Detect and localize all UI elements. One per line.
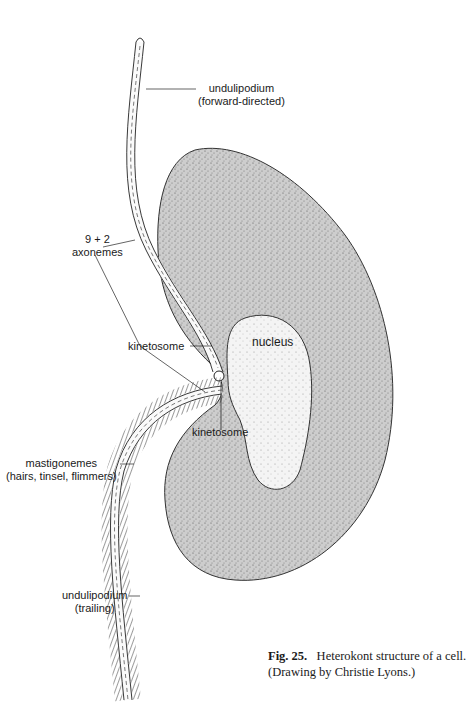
label-mastigonemes-line1: mastigonemes: [6, 457, 117, 470]
label-axonemes-line2: axonemes: [72, 246, 123, 259]
figure-caption: Fig. 25. Heterokont structure of a cell.…: [268, 648, 466, 680]
label-kinetosome-upper: kinetosome: [128, 340, 184, 353]
figure-number: Fig. 25.: [268, 649, 307, 663]
label-undulipodium-forward: undulipodium (forward-directed): [198, 82, 285, 108]
label-undulipodium-trailing-line2: (trailing): [62, 602, 127, 615]
label-undulipodium-forward-line1: undulipodium: [198, 82, 285, 95]
label-mastigonemes-line2: (hairs, tinsel, flimmers): [6, 470, 117, 483]
label-axonemes: 9 + 2 axonemes: [72, 233, 123, 259]
caption-credit: (Drawing by Christie Lyons.): [268, 664, 466, 680]
label-axonemes-line1: 9 + 2: [72, 233, 123, 246]
label-mastigonemes: mastigonemes (hairs, tinsel, flimmers): [6, 457, 117, 483]
caption-line1: Fig. 25. Heterokont structure of a cell.: [268, 648, 466, 664]
label-undulipodium-trailing-line1: undulipodium: [62, 589, 127, 602]
label-undulipodium-trailing: undulipodium (trailing): [62, 589, 127, 615]
label-undulipodium-forward-line2: (forward-directed): [198, 95, 285, 108]
label-kinetosome-lower: kinetosome: [192, 426, 248, 439]
label-nucleus: nucleus: [252, 336, 293, 349]
caption-text: Heterokont structure of a cell.: [317, 649, 466, 663]
